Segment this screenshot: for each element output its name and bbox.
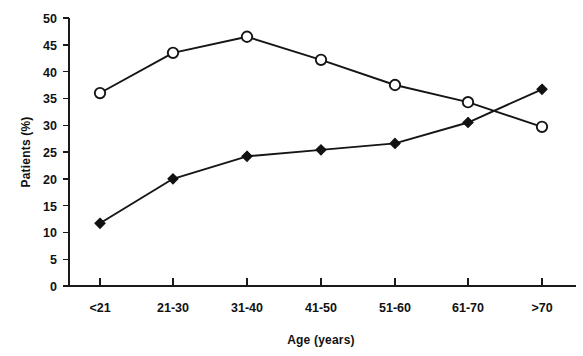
x-axis-tick-labels: <21 21-30 31-40 41-50 51-60 61-70 >70 [89, 301, 552, 315]
y-axis-title: Patients (%) [19, 116, 33, 187]
data-series-layer [95, 32, 547, 229]
y-tick-label: 15 [43, 200, 57, 214]
x-axis-title: Age (years) [287, 333, 355, 347]
data-point-open-circle [242, 32, 252, 42]
data-point-open-circle [463, 97, 473, 107]
data-point-open-circle [537, 122, 547, 132]
y-tick-label: 20 [43, 173, 57, 187]
data-point-open-circle [316, 55, 326, 65]
data-point-open-circle [168, 48, 178, 58]
y-tick-label: 25 [43, 146, 57, 160]
series-line [100, 37, 542, 127]
data-point-filled-diamond [242, 151, 252, 161]
y-tick-label: 35 [43, 92, 57, 106]
data-point-filled-diamond [390, 138, 400, 148]
y-axis-ticks [63, 18, 69, 286]
data-point-filled-diamond [95, 218, 105, 228]
y-tick-label: 10 [43, 226, 57, 240]
x-tick-label: 41-50 [305, 301, 337, 315]
x-tick-label: >70 [531, 301, 552, 315]
data-point-open-circle [390, 80, 400, 90]
data-point-filled-diamond [463, 118, 473, 128]
x-tick-label: 61-70 [452, 301, 484, 315]
chart-figure: 50 45 40 35 30 25 20 15 10 5 0 <21 21-30 [0, 0, 583, 356]
x-tick-label: 51-60 [379, 301, 411, 315]
data-point-filled-diamond [537, 84, 547, 94]
x-tick-label: <21 [89, 301, 110, 315]
y-tick-label: 45 [43, 39, 57, 53]
y-tick-label: 0 [50, 280, 57, 294]
data-point-open-circle [95, 88, 105, 98]
y-tick-label: 5 [50, 253, 57, 267]
data-point-filled-diamond [168, 174, 178, 184]
y-tick-label: 40 [43, 66, 57, 80]
x-tick-label: 21-30 [157, 301, 189, 315]
y-axis-tick-labels: 50 45 40 35 30 25 20 15 10 5 0 [43, 12, 57, 294]
data-point-filled-diamond [316, 145, 326, 155]
series-line [100, 89, 542, 223]
y-tick-label: 50 [43, 12, 57, 26]
y-tick-label: 30 [43, 119, 57, 133]
x-tick-label: 31-40 [231, 301, 263, 315]
x-axis-ticks [100, 278, 542, 286]
line-chart: 50 45 40 35 30 25 20 15 10 5 0 <21 21-30 [0, 0, 583, 356]
